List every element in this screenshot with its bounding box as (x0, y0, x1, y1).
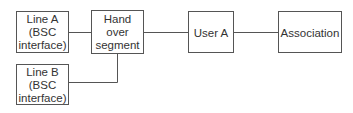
node-line-a-label-3: interface) (19, 39, 67, 51)
node-line-b-label-2: (BSC (29, 79, 56, 91)
node-user-a: User A (189, 12, 234, 53)
node-association-label: Association (281, 27, 340, 39)
node-line-a: Line A (BSC interface) (17, 12, 69, 53)
node-line-a-label-2: (BSC (29, 26, 56, 38)
node-handover-segment: Hand over segment (92, 11, 144, 54)
node-line-b-label-1: Line B (26, 66, 59, 78)
node-line-b-label-3: interface) (19, 92, 67, 104)
diagram-canvas: Line A (BSC interface) Hand over segment… (0, 0, 353, 113)
node-user-a-label: User A (194, 27, 229, 39)
edge-line-b-to-handover (69, 54, 118, 83)
node-association: Association (279, 12, 342, 53)
node-line-a-label-1: Line A (27, 13, 59, 25)
node-handover-label-2: over (106, 26, 129, 38)
node-handover-label-1: Hand (104, 13, 132, 25)
node-line-b: Line B (BSC interface) (17, 65, 69, 105)
node-handover-label-3: segment (95, 39, 140, 51)
